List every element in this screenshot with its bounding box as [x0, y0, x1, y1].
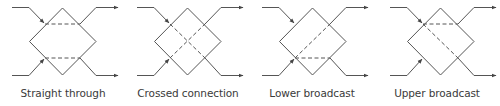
- lower-input-line: [262, 59, 294, 76]
- lower-output-line: [458, 58, 496, 76]
- lower-output-line: [80, 58, 118, 76]
- upper-input-line: [12, 8, 44, 24]
- label-crossed: Crossed connection: [137, 87, 238, 99]
- switch-panel-upper: [390, 8, 496, 76]
- upper-output-line: [80, 8, 118, 25]
- lower-input-line: [390, 59, 422, 76]
- upper-input-line: [262, 8, 294, 24]
- lower-input-line: [12, 59, 44, 76]
- upper-output-line: [458, 8, 496, 25]
- lower-output-line: [205, 58, 243, 76]
- upper-output-line: [330, 8, 368, 25]
- lower-output-line: [330, 58, 368, 76]
- upper-input-line: [137, 8, 169, 24]
- lower-input-line: [137, 59, 169, 76]
- internal-connection-dashed: [423, 24, 458, 58]
- label-straight: Straight through: [21, 87, 106, 99]
- internal-connection-dashed: [295, 24, 330, 58]
- switch-panel-straight: [12, 8, 118, 76]
- label-lower: Lower broadcast: [269, 87, 354, 99]
- upper-output-line: [205, 8, 243, 25]
- switch-panel-crossed: [137, 8, 243, 76]
- switch-panel-lower: [262, 8, 368, 76]
- upper-input-line: [390, 8, 422, 24]
- label-upper: Upper broadcast: [394, 87, 480, 99]
